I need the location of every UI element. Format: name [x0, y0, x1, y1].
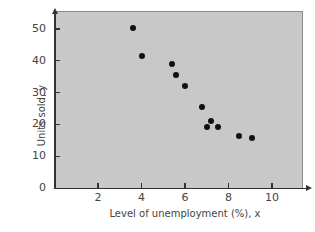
y-axis-arrow-icon — [52, 8, 58, 14]
x-axis-title: Level of unemployment (%), x — [100, 208, 270, 219]
data-point — [215, 124, 221, 130]
x-tick-label: 2 — [88, 191, 108, 204]
x-tick-label: 6 — [175, 191, 195, 204]
data-point — [130, 25, 136, 31]
x-tick — [184, 183, 185, 188]
x-tick — [271, 183, 272, 188]
data-point — [139, 53, 145, 59]
x-tick — [141, 183, 142, 188]
y-tick — [55, 60, 60, 61]
y-tick — [55, 28, 60, 29]
y-tick-label: 50 — [22, 22, 46, 35]
data-point — [182, 83, 188, 89]
x-tick — [97, 183, 98, 188]
y-tick — [55, 124, 60, 125]
y-axis-title: Units sold, y — [36, 61, 47, 171]
y-axis-line — [54, 11, 56, 189]
data-point — [208, 118, 214, 124]
y-tick — [55, 92, 60, 93]
x-tick-label: 10 — [262, 191, 282, 204]
plot-area — [55, 11, 303, 189]
y-tick-label: 0 — [22, 181, 46, 194]
x-axis-arrow-icon — [306, 185, 312, 191]
y-tick — [55, 156, 60, 157]
data-point — [169, 61, 175, 67]
x-tick-label: 4 — [132, 191, 152, 204]
x-tick — [228, 183, 229, 188]
data-point — [204, 124, 210, 130]
x-tick-label: 8 — [219, 191, 239, 204]
